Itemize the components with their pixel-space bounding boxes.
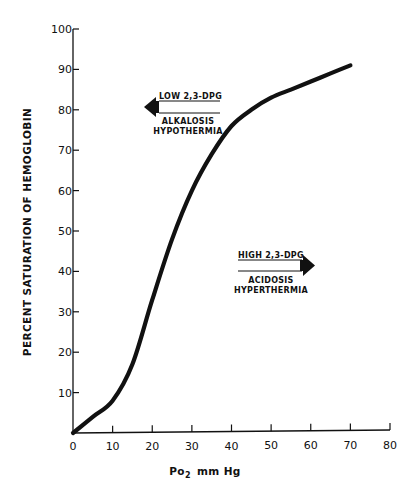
y-axis: 102030405060708090100 <box>51 23 79 433</box>
x-axis-title-unit: mm Hg <box>197 465 241 477</box>
y-tick-label: 50 <box>58 225 72 238</box>
x-tick-label: 0 <box>70 440 77 453</box>
x-tick-label: 70 <box>343 439 357 452</box>
x-axis: 01020304050607080 <box>70 423 398 453</box>
x-tick-label: 60 <box>304 439 318 452</box>
right-arrow-icon <box>303 255 315 276</box>
y-tick-label: 20 <box>58 346 72 359</box>
y-tick-label: 10 <box>58 387 72 400</box>
x-tick-label: 20 <box>145 440 159 453</box>
x-tick-label: 80 <box>383 439 397 452</box>
low-dpg-label: LOW 2,3-DPG <box>159 92 222 101</box>
y-axis-title: PERCENT SATURATION OF HEMOGLOBIN <box>21 108 33 356</box>
y-tick-label: 80 <box>58 104 72 117</box>
oxygen-dissociation-chart: 102030405060708090100 01020304050607080 … <box>0 0 412 499</box>
y-tick-label: 60 <box>58 185 72 198</box>
left-arrow-icon <box>144 97 156 117</box>
left-arrow-stem <box>155 101 159 113</box>
x-axis-title-subscript: 2 <box>185 471 191 480</box>
y-tick-label: 90 <box>58 63 72 76</box>
x-tick-label: 40 <box>225 440 239 453</box>
y-tick-label: 40 <box>58 265 72 278</box>
x-tick-label: 50 <box>264 439 278 452</box>
x-axis-title-main: Po <box>169 465 185 477</box>
x-tick-label: 30 <box>185 440 199 453</box>
high-dpg-label: HIGH 2,3-DPG <box>238 251 304 260</box>
left-shift-annotation: LOW 2,3-DPG ALKALOSIS HYPOTHERMIA <box>144 92 223 136</box>
alkalosis-label: ALKALOSIS <box>162 117 215 126</box>
y-tick-label: 70 <box>58 144 72 157</box>
y-tick-label: 30 <box>58 306 72 319</box>
hyperthermia-label: HYPERTHERMIA <box>234 286 309 295</box>
x-axis-title: Po2mm Hg <box>169 465 241 480</box>
right-shift-annotation: HIGH 2,3-DPG ACIDOSIS HYPERTHERMIA <box>234 251 315 295</box>
x-tick-label: 10 <box>106 440 120 453</box>
acidosis-label: ACIDOSIS <box>248 276 293 285</box>
hypothermia-label: HYPOTHERMIA <box>153 127 223 136</box>
y-tick-label: 100 <box>51 23 72 36</box>
